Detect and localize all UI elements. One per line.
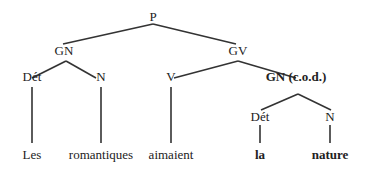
node-det-1: Dét [23, 70, 42, 84]
leaf-nature: nature [312, 148, 349, 162]
node-V: V [166, 70, 175, 84]
node-det-2: Dét [251, 110, 270, 124]
tree-edge [153, 24, 236, 44]
tree-edge [66, 61, 96, 78]
leaf-aimaient: aimaient [149, 148, 194, 162]
node-N-2: N [325, 110, 334, 124]
leaf-les: Les [23, 148, 42, 162]
node-N-1: N [96, 70, 105, 84]
tree-edge [63, 24, 153, 44]
leaf-la: la [255, 148, 265, 162]
node-GN: GN [55, 44, 74, 58]
tree-edge [298, 94, 331, 110]
node-GV: GV [229, 44, 248, 58]
node-GN-cod: GN (c.o.d.) [266, 70, 327, 84]
tree-edge [174, 61, 238, 78]
node-P: P [149, 10, 156, 24]
leaf-romantiques: romantiques [69, 148, 133, 162]
tree-edge [261, 94, 298, 110]
